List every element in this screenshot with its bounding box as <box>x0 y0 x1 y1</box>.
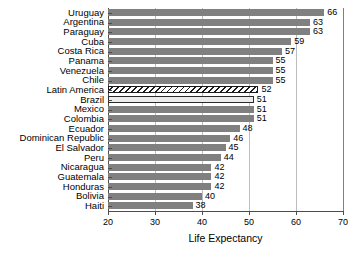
x-tick <box>249 211 250 215</box>
bar-row: 40 <box>108 192 343 202</box>
y-tick <box>108 71 112 72</box>
bar-row: 55 <box>108 56 343 66</box>
bar-el-salvador <box>108 144 226 151</box>
bar-value-label: 38 <box>196 200 206 211</box>
x-tick-label: 20 <box>93 217 123 228</box>
bar-ecuador <box>108 125 240 132</box>
bar-row: 63 <box>108 18 343 28</box>
y-tick <box>108 139 112 140</box>
bar-chile <box>108 77 273 84</box>
x-tick <box>296 211 297 215</box>
bar-row: 57 <box>108 47 343 57</box>
y-tick <box>108 81 112 82</box>
y-tick <box>108 42 112 43</box>
bar-value-label: 59 <box>294 36 304 47</box>
x-tick-label: 60 <box>281 217 311 228</box>
bar-value-label: 55 <box>276 75 286 86</box>
bar-value-label: 42 <box>214 181 224 192</box>
bar-row: 51 <box>108 105 343 115</box>
y-tick <box>108 129 112 130</box>
bar-latin-america <box>108 86 258 93</box>
bar-mexico <box>108 106 254 113</box>
bar-brazil <box>108 96 254 103</box>
bar-value-label: 57 <box>285 46 295 57</box>
x-tick <box>202 211 203 215</box>
bar-uruguay <box>108 9 324 16</box>
x-axis-title: Life Expectancy <box>108 232 343 245</box>
y-tick <box>108 197 112 198</box>
bar-argentina <box>108 19 310 26</box>
y-tick <box>108 177 112 178</box>
y-tick <box>108 90 112 91</box>
bar-row: 55 <box>108 76 343 86</box>
y-label-haiti: Haiti <box>0 201 104 211</box>
bar-row: 59 <box>108 37 343 47</box>
y-tick <box>108 206 112 207</box>
y-tick <box>108 110 112 111</box>
x-axis-line <box>108 211 344 212</box>
bar-cuba <box>108 38 291 45</box>
bar-panama <box>108 57 273 64</box>
bar-row: 51 <box>108 114 343 124</box>
bar-value-label: 40 <box>205 191 215 202</box>
bar-row: 48 <box>108 124 343 134</box>
bar-guatemala <box>108 173 211 180</box>
bar-row: 63 <box>108 27 343 37</box>
life-expectancy-bar-chart: UruguayArgentinaParaguayCubaCosta RicaPa… <box>0 0 359 260</box>
bar-paraguay <box>108 28 310 35</box>
y-tick <box>108 32 112 33</box>
bar-dominican-republic <box>108 135 230 142</box>
bar-venezuela <box>108 67 273 74</box>
x-tick <box>343 211 344 215</box>
y-tick <box>108 61 112 62</box>
x-tick <box>155 211 156 215</box>
bar-value-label: 51 <box>257 113 267 124</box>
y-axis-category-labels: UruguayArgentinaParaguayCubaCosta RicaPa… <box>0 8 104 211</box>
y-tick <box>108 187 112 188</box>
x-tick <box>108 211 109 215</box>
bar-value-label: 48 <box>243 123 253 134</box>
y-tick <box>108 168 112 169</box>
y-tick <box>108 119 112 120</box>
bar-haiti <box>108 202 193 209</box>
bar-value-label: 44 <box>224 152 234 163</box>
bar-value-label: 63 <box>313 26 323 37</box>
plot-area: 6663635957555555525151514846454442424240… <box>108 8 343 211</box>
bar-row: 42 <box>108 172 343 182</box>
bar-row: 44 <box>108 153 343 163</box>
bar-peru <box>108 154 221 161</box>
x-tick-label: 50 <box>234 217 264 228</box>
x-tick-label: 40 <box>187 217 217 228</box>
y-tick <box>108 158 112 159</box>
bar-row: 52 <box>108 85 343 95</box>
bar-bolivia <box>108 193 202 200</box>
bar-row: 42 <box>108 163 343 173</box>
plot-right-spine <box>343 8 344 211</box>
bar-row: 51 <box>108 95 343 105</box>
bar-row: 55 <box>108 66 343 76</box>
y-tick <box>108 13 112 14</box>
bar-nicaragua <box>108 164 211 171</box>
bar-value-label: 66 <box>327 7 337 18</box>
bar-row: 46 <box>108 134 343 144</box>
bar-row: 42 <box>108 182 343 192</box>
bar-costa-rica <box>108 48 282 55</box>
x-tick-label: 70 <box>328 217 358 228</box>
bar-colombia <box>108 115 254 122</box>
bar-row: 66 <box>108 8 343 18</box>
x-tick-label: 30 <box>140 217 170 228</box>
y-tick <box>108 148 112 149</box>
bar-honduras <box>108 183 211 190</box>
bar-row: 38 <box>108 201 343 211</box>
y-tick <box>108 52 112 53</box>
y-tick <box>108 100 112 101</box>
y-tick <box>108 23 112 24</box>
